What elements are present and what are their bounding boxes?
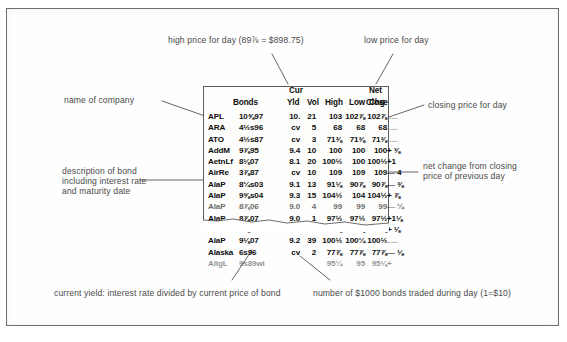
cell-high: 100: [318, 146, 342, 155]
cell-high: 71⅜: [318, 135, 342, 144]
header-chg: Chg: [369, 98, 385, 107]
cell-bond: 8¼s03: [239, 180, 283, 189]
cell-chg: + ⅞: [387, 191, 413, 200]
cell-close: 109: [364, 168, 387, 177]
cell-vol: 10: [302, 168, 316, 177]
cell-close: 68: [364, 123, 387, 132]
cell-vol: 13: [302, 180, 316, 189]
header-high: High: [325, 98, 343, 107]
cell-bond: 4½s96: [239, 123, 283, 132]
cell-close: 90⅞: [364, 180, 387, 189]
cell-bond: 9⅛07: [239, 236, 283, 245]
cell-vol: 3: [302, 135, 316, 144]
cell-bond: 9s89wi: [239, 259, 283, 268]
cell-close: 99: [364, 202, 387, 211]
header-cur: Cur: [289, 86, 303, 95]
figure-page: high price for day (89⅞ = $898.75) low p…: [0, 0, 567, 342]
cell-vol: 5: [302, 123, 316, 132]
table-row: AlaP9⅝s049.315104½104104½+ ⅞: [203, 191, 389, 202]
cell-yld: cv: [283, 123, 300, 132]
table-header-upper: Cur Net: [203, 86, 389, 97]
callout-bond-description-line3: and maturity date: [62, 186, 130, 197]
cell-high: 103: [318, 112, 342, 121]
cell-close: 95⅛: [364, 259, 387, 268]
table-rows: APL10⅝9710.21103102⅞102⅞.....ARA4½s96cv5…: [203, 112, 389, 270]
cell-low: 102⅞: [343, 112, 365, 121]
cell-bond: 10⅝97: [239, 112, 283, 121]
callout-low-price: low price for day: [364, 35, 429, 46]
cell-company: AlaP: [208, 236, 240, 245]
cell-close: 102⅞: [364, 112, 387, 121]
cell-close: 100½: [364, 157, 387, 166]
cell-low: 77⅞: [343, 248, 365, 257]
cell-chg: + ⅜: [387, 146, 413, 155]
cell-company: AlaP: [208, 202, 240, 211]
cell-company: ATO: [208, 135, 240, 144]
clipping-torn-edge: [203, 216, 389, 232]
cell-bond: 3⅞87: [239, 168, 283, 177]
cell-chg: +: [387, 259, 413, 268]
table-row: AirRe3⅞87cv10109109109— 4: [203, 168, 389, 179]
cell-bond: 6s96: [239, 248, 283, 257]
cell-company: APL: [208, 112, 240, 121]
cell-chg: .....: [387, 123, 413, 132]
cell-yld: 9.0: [283, 202, 300, 211]
table-row: APL10⅝9710.21103102⅞102⅞.....: [203, 112, 389, 123]
cell-low: 99: [343, 202, 365, 211]
cell-high: 100½: [318, 157, 342, 166]
cell-vol: 4: [302, 202, 316, 211]
table-row: ATO4½s87cv371⅜71⅜71⅜.....: [203, 135, 389, 146]
cell-company: AlaP: [208, 180, 240, 189]
callout-net-change-line1: net change from closing: [423, 161, 517, 172]
table-header-lower: Bonds Yld Vol High Low Close Chg: [203, 97, 389, 110]
table-row: AetnLf8⅛078.120100½100100½+1: [203, 157, 389, 168]
cell-close: 77⅞: [364, 248, 387, 257]
cell-high: 68: [318, 123, 342, 132]
callout-closing-price: closing price for day: [428, 100, 507, 111]
cell-vol: 20: [302, 157, 316, 166]
cell-low: 95: [343, 259, 365, 268]
cell-yld: 9.1: [283, 180, 300, 189]
callout-high-price: high price for day (89⅞ = $898.75): [168, 35, 304, 46]
bond-quote-table: Cur Net Bonds Yld Vol High Low Close Chg…: [203, 86, 389, 270]
cell-high: 109: [318, 168, 342, 177]
cell-yld: cv: [283, 168, 300, 177]
cell-chg: — ⅜: [387, 180, 413, 189]
table-row: Alaska6s96cv277⅞77⅞77⅞— ⅛: [203, 248, 389, 259]
header-vol: Vol: [307, 98, 319, 107]
header-net: Net: [369, 86, 382, 95]
cell-chg: — ⅛: [387, 248, 413, 257]
cell-chg: — 4: [387, 168, 413, 177]
cell-company: AetnLf: [208, 157, 240, 166]
callout-current-yield: current yield: interest rate divided by …: [54, 288, 281, 299]
cell-bond: 9⅞95: [239, 146, 283, 155]
callout-company-name: name of company: [64, 95, 134, 106]
cell-high: 95¼: [318, 259, 342, 268]
cell-chg: .....: [387, 112, 413, 121]
cell-low: 100¼: [343, 236, 365, 245]
cell-low: 68: [343, 123, 365, 132]
table-row: AllgL9s89wi95¼9595⅛+: [203, 259, 389, 270]
cell-high: 100½: [318, 236, 342, 245]
table-row: AlaP9⅛079.239100½100¼100½.....: [203, 236, 389, 247]
cell-vol: 15: [302, 191, 316, 200]
cell-vol: 39: [302, 236, 316, 245]
callout-volume: number of $1000 bonds traded during day …: [313, 288, 511, 299]
cell-bond: 4½s87: [239, 135, 283, 144]
cell-company: ARA: [208, 123, 240, 132]
cell-close: 100½: [364, 236, 387, 245]
table-row: ARA4½s96cv5686868.....: [203, 123, 389, 134]
cell-company: AlaP: [208, 191, 240, 200]
cell-chg: .....: [387, 135, 413, 144]
cell-close: 100: [364, 146, 387, 155]
cell-chg: + ⅛: [387, 225, 413, 234]
callout-bond-description-line1: description of bond: [62, 166, 137, 177]
table-row: AlaP8⅞069.04999999— ¼: [203, 202, 389, 213]
cell-chg: +1: [387, 157, 413, 166]
cell-company: AddM: [208, 146, 240, 155]
cell-yld: 9.2: [283, 236, 300, 245]
cell-yld: cv: [283, 248, 300, 257]
callout-bond-description-line2: including interest rate: [62, 176, 146, 187]
cell-company: AllgL: [208, 259, 240, 268]
cell-yld: 9.4: [283, 146, 300, 155]
